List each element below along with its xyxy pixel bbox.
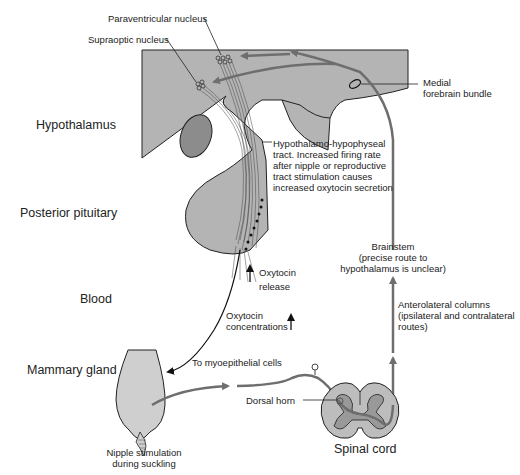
tract-line: Hypothalamo-hypophyseal — [273, 138, 393, 149]
myoepithelial-label: To myoepithelial cells — [192, 357, 282, 368]
brainstem-line: (precise route to — [338, 252, 448, 263]
nipple-line: Nipple stimulation — [98, 447, 190, 458]
region-posterior-pituitary: Posterior pituitary — [20, 206, 117, 220]
tract-line: increased oxytocin secretion — [273, 182, 393, 193]
oxytocin-release-label: Oxytocin release — [259, 266, 296, 294]
oxytocin-release-line: Oxytocin — [259, 266, 296, 280]
anterolateral-line: Anterolateral columns — [398, 299, 515, 310]
supraoptic-nucleus-label: Supraoptic nucleus — [88, 34, 169, 45]
tract-description: Hypothalamo-hypophyseal tract. Increased… — [273, 138, 393, 193]
tract-line: tract. Increased firing rate — [273, 149, 393, 160]
tract-line: tract stimulation causes — [273, 171, 393, 182]
brainstem-label: Brainstem (precise route to hypothalamus… — [338, 241, 448, 274]
brainstem-line: Brainstem — [338, 241, 448, 252]
region-mammary-gland: Mammary gland — [27, 363, 117, 377]
medial-forebrain-bundle-label: Medial forebrain bundle — [423, 77, 492, 99]
oxytocin-conc-line: concentrations — [226, 321, 288, 332]
oxytocin-concentrations-label: Oxytocin concentrations — [226, 310, 288, 332]
anterolateral-label: Anterolateral columns (ipsilateral and c… — [398, 299, 515, 332]
dorsal-root-ganglion — [312, 364, 318, 370]
mfb-line2: forebrain bundle — [423, 88, 492, 99]
brainstem-line: hypothalamus is unclear) — [338, 263, 448, 274]
spinal-cord-shape — [321, 383, 399, 438]
anterolateral-line: routes) — [398, 321, 515, 332]
nipple-stimulation-label: Nipple stimulation during suckling — [98, 447, 190, 469]
oxytocin-release-line: release — [259, 280, 296, 294]
tract-line: after nipple or reproductive — [273, 160, 393, 171]
anterolateral-line: (ipsilateral and contralateral — [398, 310, 515, 321]
region-spinal-cord: Spinal cord — [334, 442, 397, 456]
oxytocin-conc-line: Oxytocin — [226, 310, 288, 321]
mfb-line1: Medial — [423, 77, 492, 88]
dorsal-horn-label: Dorsal horn — [246, 395, 295, 406]
nipple-line: during suckling — [98, 458, 190, 469]
region-hypothalamus: Hypothalamus — [36, 118, 116, 132]
paraventricular-nucleus-label: Paraventricular nucleus — [108, 13, 207, 24]
region-blood: Blood — [80, 292, 112, 306]
